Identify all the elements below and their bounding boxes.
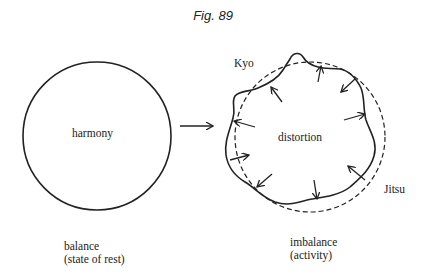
harmony-label: harmony (72, 127, 113, 140)
jitsu-label: Jitsu (384, 183, 405, 196)
diagram-canvas (0, 0, 426, 279)
distortion-outline (226, 53, 375, 203)
imbalance-caption-line1: imbalance (290, 236, 337, 249)
balance-caption: balance (state of rest) (64, 240, 125, 266)
balance-caption-line1: balance (64, 240, 125, 253)
imbalance-caption-line2: (activity) (290, 249, 337, 262)
distortion-label: distortion (278, 131, 322, 144)
kyo-label: Kyo (234, 57, 254, 70)
imbalance-caption: imbalance (activity) (290, 236, 337, 262)
balance-caption-line2: (state of rest) (64, 253, 125, 266)
